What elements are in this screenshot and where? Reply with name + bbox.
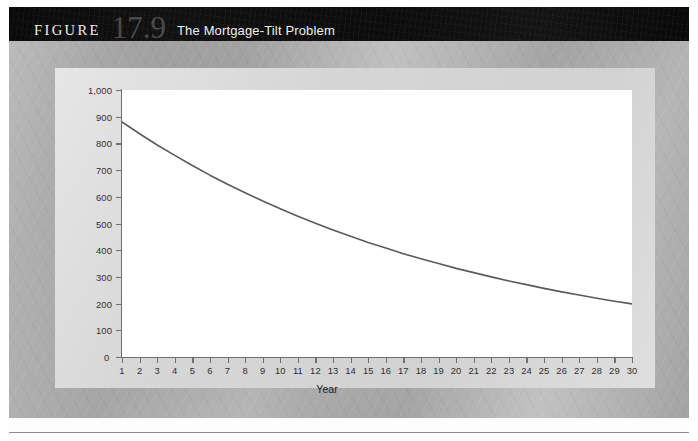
y-axis-tick xyxy=(116,250,122,251)
x-axis-tick-label: 21 xyxy=(468,365,479,376)
y-axis-tick-label: 600 xyxy=(66,191,112,202)
x-axis-tick xyxy=(157,357,158,363)
page-bottom-rule xyxy=(9,432,689,433)
x-axis-tick-label: 19 xyxy=(433,365,444,376)
x-axis-tick-label: 15 xyxy=(363,365,374,376)
x-axis-tick-label: 28 xyxy=(592,365,603,376)
x-axis-tick xyxy=(351,357,352,363)
x-axis-tick xyxy=(368,357,369,363)
x-axis-tick xyxy=(509,357,510,363)
x-axis-tick-label: 6 xyxy=(207,365,212,376)
x-axis-tick xyxy=(175,357,176,363)
x-axis-tick-label: 7 xyxy=(225,365,230,376)
x-axis-tick-label: 25 xyxy=(539,365,550,376)
figure-title-label: The Mortgage-Tilt Problem xyxy=(177,23,335,38)
y-axis-tick-label: 800 xyxy=(66,138,112,149)
plot-area xyxy=(122,90,632,357)
y-axis-tick xyxy=(116,304,122,305)
x-axis-tick xyxy=(228,357,229,363)
x-axis-tick xyxy=(298,357,299,363)
x-axis-tick xyxy=(263,357,264,363)
figure-number-label: 17.9 xyxy=(112,12,166,42)
x-axis-tick xyxy=(403,357,404,363)
x-axis-tick xyxy=(456,357,457,363)
x-axis-tick xyxy=(386,357,387,363)
x-axis-tick xyxy=(122,357,123,363)
y-axis-tick xyxy=(116,197,122,198)
x-axis-tick-label: 29 xyxy=(609,365,620,376)
x-axis-tick xyxy=(474,357,475,363)
x-axis-tick-label: 3 xyxy=(154,365,159,376)
x-axis-tick xyxy=(526,357,527,363)
x-axis-tick-label: 10 xyxy=(275,365,286,376)
x-axis-tick-label: 24 xyxy=(521,365,532,376)
page-top-margin xyxy=(0,0,698,7)
x-axis-tick-label: 23 xyxy=(504,365,515,376)
y-axis-tick xyxy=(116,90,122,91)
x-axis-tick xyxy=(245,357,246,363)
x-axis-tick-label: 11 xyxy=(293,365,303,376)
x-axis-tick xyxy=(333,357,334,363)
x-axis-tick-label: 12 xyxy=(310,365,321,376)
x-axis-tick-label: 8 xyxy=(242,365,247,376)
x-axis-tick-label: 5 xyxy=(190,365,195,376)
x-axis-tick-label: 14 xyxy=(345,365,356,376)
y-axis-tick xyxy=(116,224,122,225)
y-axis-tick xyxy=(116,277,122,278)
y-axis-tick xyxy=(116,117,122,118)
y-axis-tick-label: 900 xyxy=(66,111,112,122)
x-axis-title: Year xyxy=(0,383,698,395)
x-axis-tick xyxy=(632,357,633,363)
y-axis-tick-label: 500 xyxy=(66,218,112,229)
x-axis-tick-label: 22 xyxy=(486,365,497,376)
y-axis-tick xyxy=(116,143,122,144)
page-right-margin xyxy=(689,0,698,441)
x-axis-tick-label: 20 xyxy=(451,365,462,376)
x-axis-tick-label: 26 xyxy=(556,365,567,376)
x-axis-tick xyxy=(614,357,615,363)
x-axis-tick xyxy=(280,357,281,363)
page-left-margin xyxy=(0,0,9,441)
x-axis-tick-label: 1 xyxy=(119,365,124,376)
figure-header-content: FIGURE 17.9 The Mortgage-Tilt Problem xyxy=(9,9,335,40)
x-axis-tick-label: 17 xyxy=(398,365,409,376)
chart-curve-svg xyxy=(122,90,632,357)
x-axis-tick-label: 4 xyxy=(172,365,177,376)
y-axis-tick xyxy=(116,330,122,331)
x-axis-tick-label: 30 xyxy=(627,365,638,376)
x-axis-tick xyxy=(210,357,211,363)
y-axis-tick-label: 400 xyxy=(66,245,112,256)
figure-page: FIGURE 17.9 The Mortgage-Tilt Problem 0 … xyxy=(0,0,698,441)
y-axis-labels: 1002003004005006007008009001,000 xyxy=(60,0,112,441)
y-axis-tick-label: 300 xyxy=(66,271,112,282)
x-axis-tick xyxy=(597,357,598,363)
x-axis-tick xyxy=(544,357,545,363)
x-axis-line xyxy=(121,357,633,358)
x-axis-tick-label: 16 xyxy=(380,365,391,376)
x-axis-tick-label: 27 xyxy=(574,365,585,376)
x-axis-tick-label: 18 xyxy=(416,365,427,376)
x-axis-tick xyxy=(579,357,580,363)
y-axis-tick-label: 700 xyxy=(66,165,112,176)
page-bottom-strip xyxy=(0,418,698,441)
x-axis-tick xyxy=(315,357,316,363)
x-axis-tick xyxy=(491,357,492,363)
x-axis-tick xyxy=(192,357,193,363)
y-axis-tick xyxy=(116,170,122,171)
x-axis-title-text: Year xyxy=(316,383,337,395)
data-series-line xyxy=(122,122,632,304)
x-axis-tick-label: 2 xyxy=(137,365,142,376)
y-axis-tick-label: 200 xyxy=(66,298,112,309)
x-axis-tick xyxy=(562,357,563,363)
x-axis-tick xyxy=(439,357,440,363)
x-axis-tick-label: 9 xyxy=(260,365,265,376)
x-axis-tick-label: 13 xyxy=(328,365,339,376)
x-axis-tick xyxy=(421,357,422,363)
y-axis-tick-label: 1,000 xyxy=(66,85,112,96)
x-axis-tick xyxy=(140,357,141,363)
y-axis-tick-label: 100 xyxy=(66,325,112,336)
